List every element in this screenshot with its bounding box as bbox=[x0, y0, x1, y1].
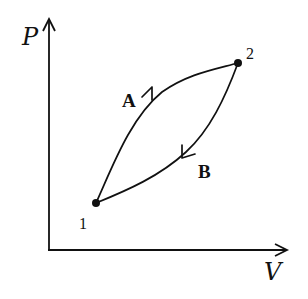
y-axis-label: P bbox=[21, 23, 39, 51]
point-2-label: 2 bbox=[246, 45, 254, 62]
path-a-label: A bbox=[122, 90, 136, 111]
path-a-arrow-icon bbox=[142, 87, 152, 100]
point-2-dot bbox=[234, 59, 242, 67]
point-1-dot bbox=[92, 199, 100, 207]
path-b-arrow-icon bbox=[182, 145, 195, 158]
pv-diagram: P V 1 2 A B bbox=[0, 0, 308, 299]
point-1-label: 1 bbox=[79, 215, 87, 232]
x-axis-label: V bbox=[264, 258, 284, 286]
path-b-curve bbox=[96, 63, 238, 203]
path-b-label: B bbox=[198, 161, 211, 182]
path-a-curve bbox=[96, 63, 238, 203]
